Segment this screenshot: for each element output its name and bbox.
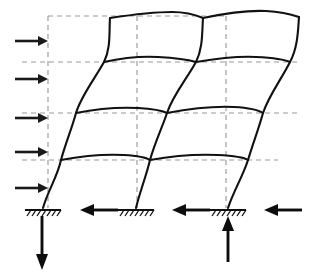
reaction-horizontal-left: [80, 204, 118, 216]
beam-level2-right: [167, 107, 263, 113]
reaction-vertical-left-down: [36, 216, 48, 270]
support-fixed-left: [25, 210, 61, 216]
reaction-horizontal-right: [264, 204, 302, 216]
reaction-vertical-right-up: [222, 216, 234, 262]
beam-level1-right: [150, 155, 248, 160]
frame-deflection-diagram: [0, 0, 314, 278]
beam-roof-right: [203, 11, 299, 18]
support-fixed-middle: [118, 210, 154, 216]
frame-diagram-canvas: [0, 0, 314, 278]
beam-level1-left: [61, 155, 150, 160]
beam-level3-left: [104, 57, 196, 62]
lateral-load-base: [15, 183, 48, 193]
beam-level2-left: [76, 108, 167, 113]
undeformed-grid-group: [22, 16, 300, 208]
applied-lateral-loads-group: [15, 36, 48, 193]
lateral-load-story-4: [15, 36, 48, 46]
supports-group: [25, 210, 246, 216]
lateral-load-story-3: [15, 74, 48, 84]
support-fixed-right: [210, 210, 246, 216]
deformed-frame-group: [43, 11, 299, 208]
reaction-horizontal-middle: [172, 204, 210, 216]
lateral-load-story-1: [15, 147, 48, 157]
beam-roof-left: [110, 12, 203, 18]
lateral-load-story-2: [15, 113, 48, 123]
beam-level3-right: [196, 57, 290, 62]
base-reactions-group: [36, 204, 302, 270]
